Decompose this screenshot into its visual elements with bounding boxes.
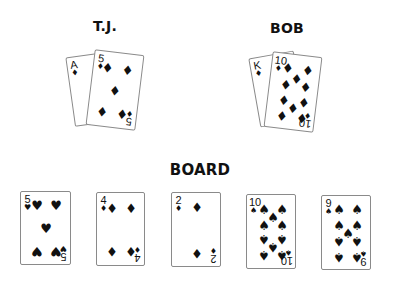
spade-icon: ♠ — [351, 235, 364, 248]
heart-icon: ♥ — [31, 199, 44, 212]
card-corner: 9 ♠ — [359, 249, 368, 267]
spade-icon: ♠ — [359, 249, 368, 257]
board-card-3: 2 ♦ ♦ ♦ 2 ♦ — [171, 192, 221, 267]
card-corner: 10 ♠ — [284, 248, 293, 266]
hand-tj: A ♦ 5 ♦ ♦ ♦ ♦ ♦ ♦ 5 ♦ — [68, 44, 168, 134]
spade-icon: ♠ — [351, 203, 364, 216]
card-corner: 4 ♦ — [133, 245, 142, 263]
heart-icon: ♥ — [50, 199, 63, 212]
diamond-icon: ♦ — [275, 109, 289, 123]
hand-bob: K ♦ 10 ♦ ♦ ♦ ♦ ♦ ♦ ♦ ♦ ♦ ♦ ♦ 10 ♦ — [248, 46, 348, 136]
board-card-2: 4 ♦ ♦ ♦ ♦ ♦ 4 ♦ — [96, 192, 145, 266]
diamond-icon: ♦ — [95, 104, 109, 118]
diamond-icon: ♦ — [279, 78, 293, 92]
diamond-icon: ♦ — [100, 61, 114, 75]
diamond-icon: ♦ — [125, 202, 138, 215]
spade-icon: ♠ — [284, 248, 293, 256]
spade-icon: ♠ — [333, 235, 346, 248]
board-card-1: 5 ♥ ♥ ♥ ♥ ♥ ♥ 5 ♥ — [20, 191, 71, 265]
player-label-tj: T.J. — [80, 18, 130, 34]
card-corner: 10 ♦ — [302, 110, 313, 129]
diamond-icon: ♦ — [174, 205, 183, 213]
diamond-icon: ♦ — [253, 69, 263, 78]
card-tj-2: 5 ♦ ♦ ♦ ♦ ♦ ♦ 5 ♦ — [86, 49, 145, 131]
diamond-icon: ♦ — [298, 80, 312, 94]
board-card-5: 9 ♠ ♠ ♠ ♠ ♠ ♠ ♠ ♠ ♠ ♠ 9 ♠ — [321, 195, 371, 270]
heart-icon: ♥ — [40, 222, 53, 235]
diamond-icon: ♦ — [209, 246, 218, 254]
heart-icon: ♥ — [31, 245, 44, 258]
diamond-icon: ♦ — [191, 247, 204, 260]
spade-icon: ♠ — [258, 249, 271, 262]
diamond-icon: ♦ — [106, 202, 119, 215]
spade-icon: ♠ — [258, 219, 271, 232]
player-label-bob: BOB — [262, 20, 312, 36]
card-corner: 2 ♦ — [174, 195, 183, 213]
board-label: BOARD — [160, 161, 240, 179]
card-corner: K ♦ — [252, 59, 264, 78]
diamond-icon: ♦ — [108, 84, 122, 98]
diamond-icon: ♦ — [125, 108, 135, 117]
spade-icon: ♠ — [333, 203, 346, 216]
card-corner: 2 ♦ — [209, 246, 218, 264]
board-card-4: 10 ♠ ♠ ♠ ♠ ♠ ♠ ♠ ♠ ♠ ♠ ♠ 10 ♠ — [246, 194, 296, 269]
spade-icon: ♠ — [333, 251, 346, 264]
diamond-icon: ♦ — [120, 63, 134, 77]
card-corner: 5 ♥ — [59, 244, 68, 262]
spade-icon: ♠ — [276, 219, 289, 232]
diamond-icon: ♦ — [191, 201, 204, 214]
diamond-icon: ♦ — [133, 245, 142, 253]
card-bob-2: 10 ♦ ♦ ♦ ♦ ♦ ♦ ♦ ♦ ♦ ♦ ♦ 10 ♦ — [264, 51, 323, 133]
card-corner: A ♦ — [69, 59, 80, 78]
card-corner: 5 ♦ — [124, 108, 135, 127]
heart-icon: ♥ — [59, 244, 68, 252]
diamond-icon: ♦ — [70, 69, 80, 78]
diamond-icon: ♦ — [106, 245, 119, 258]
